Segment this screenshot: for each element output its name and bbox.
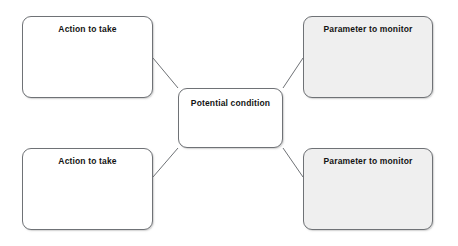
- node-label-action-to-take-top: Action to take: [23, 24, 152, 34]
- connector-top-right: [283, 58, 303, 88]
- node-potential-condition[interactable]: Potential condition: [178, 88, 283, 148]
- node-action-to-take-bottom[interactable]: Action to take: [22, 148, 153, 230]
- connector-top-left: [153, 58, 178, 88]
- diagram-canvas: Action to take Parameter to monitor Acti…: [0, 0, 458, 246]
- connector-bottom-right: [283, 148, 303, 177]
- node-action-to-take-top[interactable]: Action to take: [22, 16, 153, 98]
- node-parameter-to-monitor-bottom[interactable]: Parameter to monitor: [303, 148, 433, 230]
- node-label-potential-condition: Potential condition: [179, 98, 282, 108]
- node-parameter-to-monitor-top[interactable]: Parameter to monitor: [303, 16, 433, 98]
- node-label-parameter-to-monitor-bottom: Parameter to monitor: [304, 156, 432, 166]
- node-label-action-to-take-bottom: Action to take: [23, 156, 152, 166]
- connector-bottom-left: [153, 148, 178, 177]
- node-label-parameter-to-monitor-top: Parameter to monitor: [304, 24, 432, 34]
